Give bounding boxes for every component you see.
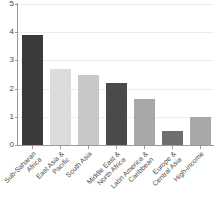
gridline bbox=[18, 32, 214, 33]
bar-chart: 012345 Sub-SaharanAfricaEast Asia &Pacif… bbox=[0, 0, 216, 200]
bar bbox=[106, 83, 127, 145]
y-axis-tick-label: 5 bbox=[0, 0, 14, 8]
x-axis-tick-mark bbox=[116, 146, 117, 149]
x-axis-tick-mark bbox=[172, 146, 173, 149]
y-axis-tick-label: 0 bbox=[0, 141, 14, 149]
y-axis-tick-label: 2 bbox=[0, 85, 14, 93]
bar bbox=[78, 75, 99, 145]
x-axis-tick-mark bbox=[88, 146, 89, 149]
y-axis-tick-label: 3 bbox=[0, 56, 14, 64]
gridline bbox=[18, 4, 214, 5]
bar bbox=[162, 131, 183, 145]
y-axis-tick-label: 4 bbox=[0, 28, 14, 36]
gridline bbox=[18, 60, 214, 61]
bar bbox=[22, 35, 43, 145]
x-axis-tick-mark bbox=[200, 146, 201, 149]
bar bbox=[134, 99, 155, 145]
x-axis-tick-mark bbox=[32, 146, 33, 149]
x-axis-tick-mark bbox=[144, 146, 145, 149]
bar bbox=[50, 69, 71, 145]
y-axis-tick-label: 1 bbox=[0, 113, 14, 121]
x-axis-label-line: South Asia bbox=[64, 150, 93, 179]
bar bbox=[190, 117, 211, 145]
plot-area bbox=[18, 4, 214, 145]
x-axis-tick-mark bbox=[60, 146, 61, 149]
